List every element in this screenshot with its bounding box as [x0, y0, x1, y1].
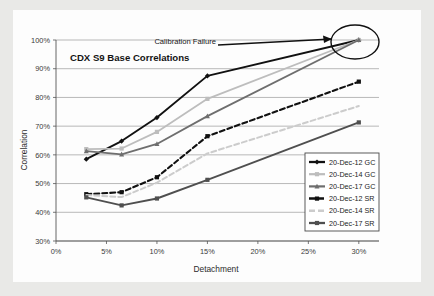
x-tick-label: 20% [250, 247, 265, 256]
y-tick-label: 40% [35, 208, 50, 217]
y-tick-label: 80% [35, 93, 50, 102]
y-axis-ticks: 30%40%50%60%70%80%90%100% [31, 36, 56, 246]
data-point-marker [205, 178, 209, 182]
x-tick-label: 0% [51, 247, 62, 256]
legend-label: 20-Dec-12 GC [329, 158, 375, 167]
data-point-marker [315, 197, 319, 201]
x-tick-label: 5% [101, 247, 112, 256]
line-chart-figure: 30%40%50%60%70%80%90%100% 0%5%10%15%20%2… [0, 0, 434, 296]
y-tick-label: 60% [35, 151, 50, 160]
y-tick-label: 100% [31, 36, 50, 45]
calibration-failure-label: Calibration Failure [154, 37, 216, 46]
x-axis-ticks: 0%5%10%15%20%25%30% [51, 241, 367, 256]
y-tick-label: 30% [35, 237, 50, 246]
data-point-marker [120, 190, 124, 194]
data-point-marker [205, 97, 209, 101]
x-tick-label: 25% [301, 247, 316, 256]
data-point-marker [357, 120, 361, 124]
x-axis-title: Detachment [193, 264, 239, 274]
data-point-marker [205, 134, 209, 138]
data-point-marker [120, 146, 124, 150]
data-point-marker [357, 80, 361, 84]
data-point-marker [155, 196, 159, 200]
data-point-marker [120, 203, 124, 207]
data-point-marker [315, 172, 319, 176]
x-tick-label: 30% [351, 247, 366, 256]
y-tick-label: 50% [35, 179, 50, 188]
chart-legend: 20-Dec-12 GC20-Dec-14 GC20-Dec-17 GC20-D… [305, 153, 379, 231]
data-point-marker [84, 195, 88, 199]
chart-page: 30%40%50%60%70%80%90%100% 0%5%10%15%20%2… [0, 0, 434, 296]
data-point-marker [315, 221, 319, 225]
data-point-marker [155, 175, 159, 179]
legend-label: 20-Dec-17 SR [329, 219, 375, 228]
legend-label: 20-Dec-12 SR [329, 194, 375, 203]
x-tick-label: 10% [150, 247, 165, 256]
chart-canvas: 30%40%50%60%70%80%90%100% 0%5%10%15%20%2… [0, 0, 434, 296]
chart-title: CDX S9 Base Correlations [70, 52, 189, 63]
legend-label: 20-Dec-17 GC [329, 182, 375, 191]
y-axis-title: Correlation [19, 129, 29, 170]
x-tick-label: 15% [200, 247, 215, 256]
data-point-marker [155, 130, 159, 134]
legend-label: 20-Dec-14 GC [329, 170, 375, 179]
y-tick-label: 70% [35, 122, 50, 131]
legend-label: 20-Dec-14 SR [329, 206, 375, 215]
y-tick-label: 90% [35, 64, 50, 73]
